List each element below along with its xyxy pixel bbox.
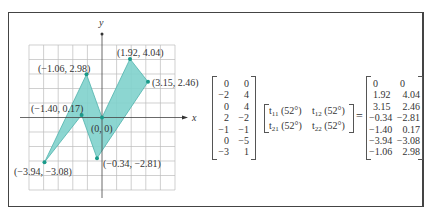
input-matrix: 0 −2 0 2 −1 0 −3 0 4 4 −2 −1 −5 1 (212, 76, 256, 158)
y-axis-arrow-icon (101, 33, 104, 36)
output-matrix: 0 1.92 3.15 −0.34 −1.40 −3.94 −1.06 0 4.… (366, 76, 422, 158)
point-label-1: (1.92, 4.04) (117, 47, 164, 59)
x-axis-label: x (191, 112, 197, 123)
equals-sign: = (356, 109, 363, 124)
point-label-3: (−0.34, −2.81) (103, 158, 161, 170)
point-label-5: (−3.94, −3.08) (14, 166, 72, 178)
y-axis-label: y (98, 17, 104, 28)
point-label-6: (−1.06, 2.98) (38, 63, 90, 75)
transformation-matrix: t11 (52°)t12 (52°) t21 (52°)t22 (52°) (264, 104, 354, 131)
point-label-2: (3.15, 2.46) (152, 77, 199, 89)
x-axis-arrow-icon (182, 116, 188, 120)
point-label-origin: (0, 0) (91, 123, 113, 135)
point-label-4: (−1.40, 0.17) (31, 103, 83, 115)
